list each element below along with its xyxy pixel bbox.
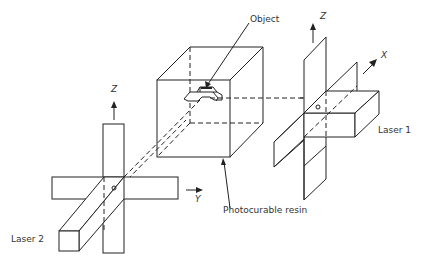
object-leader — [205, 23, 249, 88]
z-axis-label-laser2: Z — [111, 85, 117, 94]
resin-leader-arrowhead — [221, 158, 226, 165]
resin-leader — [224, 162, 230, 208]
y-axis-label: Y — [195, 195, 201, 204]
x-axis-label: X — [381, 51, 387, 60]
resin-label: Photocurable resin — [223, 206, 307, 215]
x-axis-arrow — [363, 59, 377, 74]
diagram-svg — [0, 0, 421, 269]
laser2-beam — [124, 100, 200, 177]
laser1-label: Laser 1 — [378, 126, 411, 135]
z-axis-arrow-laser2 — [111, 101, 117, 120]
object-label: Object — [250, 15, 279, 24]
y-axis-arrow — [186, 187, 203, 193]
laser2-assembly — [52, 124, 178, 253]
resin-cube — [157, 47, 263, 157]
laser2-label: Laser 2 — [11, 235, 44, 244]
z-axis-label-laser1: Z — [320, 12, 326, 21]
z-axis-arrow-laser1 — [310, 23, 316, 43]
laser1-assembly — [274, 37, 379, 200]
diagram-canvas: Object Photocurable resin Laser 1 Laser … — [0, 0, 421, 269]
